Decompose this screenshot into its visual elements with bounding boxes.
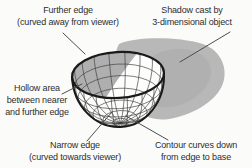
label-line: (curved towards viewer) bbox=[18, 151, 132, 163]
label-line: (curved away from viewer) bbox=[8, 16, 128, 28]
label-further-edge: Further edge (curved away from viewer) bbox=[8, 4, 128, 28]
bowl-shading-diagram: Further edge (curved away from viewer) S… bbox=[0, 0, 252, 168]
label-line: and further edge bbox=[0, 106, 74, 118]
label-line: Narrow edge bbox=[18, 139, 132, 151]
label-shadow: Shadow cast by 3-dimensional object bbox=[136, 4, 248, 28]
label-line: 3-dimensional object bbox=[136, 16, 248, 28]
further-edge-leader-line bbox=[63, 33, 85, 54]
label-line: Contour curves down bbox=[140, 139, 252, 151]
label-line: Hollow area bbox=[0, 82, 74, 94]
label-line: between nearer bbox=[0, 94, 74, 106]
label-line: Further edge bbox=[8, 4, 128, 16]
bowl bbox=[65, 48, 167, 131]
label-narrow-edge: Narrow edge (curved towards viewer) bbox=[18, 139, 132, 163]
label-contour: Contour curves down from edge to base bbox=[140, 139, 252, 163]
contour-leader-line bbox=[126, 116, 168, 140]
label-line: from edge to base bbox=[140, 151, 252, 163]
label-hollow-area: Hollow area between nearer and further e… bbox=[0, 82, 74, 118]
label-line: Shadow cast by bbox=[136, 4, 248, 16]
